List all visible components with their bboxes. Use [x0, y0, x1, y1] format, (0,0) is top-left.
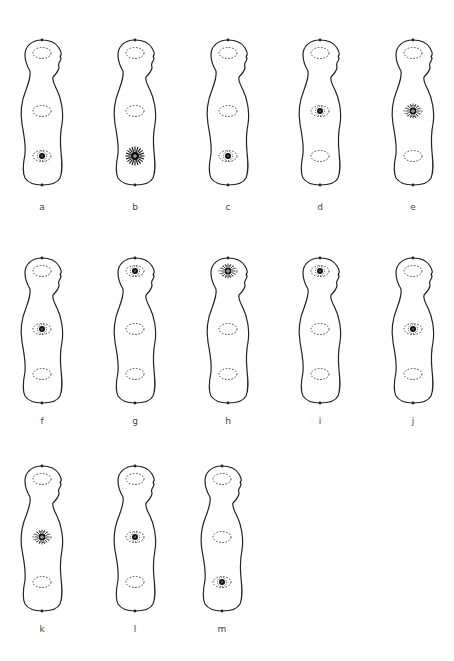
- panel-label: b: [95, 202, 175, 212]
- panel-label: d: [280, 202, 360, 212]
- figure-panel-i: i: [280, 256, 360, 446]
- figure-panel-l: l: [95, 464, 175, 654]
- body-silhouette-icon: [2, 38, 82, 198]
- activation-spot-icon: [223, 151, 232, 160]
- panel-label: c: [188, 202, 268, 212]
- body-silhouette-icon: [95, 256, 175, 416]
- body-silhouette-icon: [280, 38, 360, 198]
- activation-spot-icon: [130, 532, 139, 541]
- body-silhouette-icon: [188, 38, 268, 198]
- figure-panel-j: j: [373, 256, 453, 446]
- activation-spot-icon: [37, 151, 46, 160]
- panel-label: i: [280, 416, 360, 426]
- figure-panel-g: g: [95, 256, 175, 446]
- activation-spot-icon: [315, 106, 324, 115]
- body-silhouette-icon: [373, 256, 453, 416]
- figure-panel-e: e: [373, 38, 453, 228]
- panel-label: e: [373, 202, 453, 212]
- body-silhouette-icon: [188, 256, 268, 416]
- panel-label: l: [95, 624, 175, 634]
- panel-label: j: [373, 416, 453, 426]
- panel-label: h: [188, 416, 268, 426]
- figure-panel-d: d: [280, 38, 360, 228]
- figure-panel-f: f: [2, 256, 82, 446]
- body-silhouette-icon: [2, 256, 82, 416]
- activation-spot-icon: [217, 577, 226, 586]
- activation-spot-icon: [35, 530, 50, 545]
- activation-spot-icon: [221, 264, 236, 279]
- figure-panel-c: c: [188, 38, 268, 228]
- body-silhouette-icon: [182, 464, 262, 624]
- panel-label: k: [2, 624, 82, 634]
- panel-label: g: [95, 416, 175, 426]
- body-silhouette-icon: [2, 464, 82, 624]
- activation-spot-icon: [408, 324, 417, 333]
- body-silhouette-icon: [95, 464, 175, 624]
- body-silhouette-icon: [280, 256, 360, 416]
- activation-spot-icon: [406, 104, 421, 119]
- panel-label: m: [182, 624, 262, 634]
- panel-label: a: [2, 202, 82, 212]
- activation-spot-icon: [130, 266, 139, 275]
- figure-panel-k: k: [2, 464, 82, 654]
- body-silhouette-icon: [95, 38, 175, 198]
- activation-spot-icon: [315, 266, 324, 275]
- figure-panel-b: b: [95, 38, 175, 228]
- activation-spot-icon: [37, 324, 46, 333]
- body-silhouette-icon: [373, 38, 453, 198]
- figure-panel-h: h: [188, 256, 268, 446]
- figure-panel-m: m: [182, 464, 262, 654]
- figure-panel-a: a: [2, 38, 82, 228]
- activation-spot-icon: [126, 147, 145, 166]
- panel-label: f: [2, 416, 82, 426]
